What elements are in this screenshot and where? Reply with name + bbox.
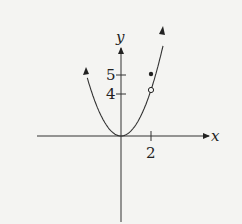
y-tick-label-5: 5	[106, 66, 116, 84]
y-tick-label-4: 4	[106, 85, 116, 103]
open-circle-point	[148, 87, 153, 92]
filled-dot-point	[149, 72, 153, 76]
left-arrow-icon	[83, 67, 89, 75]
right-arrow-icon	[159, 26, 165, 35]
graph-figure: y x 2 5 4	[0, 0, 242, 224]
y-axis-label: y	[115, 28, 125, 46]
graph-svg: y x 2 5 4	[0, 0, 242, 224]
x-axis-label: x	[211, 127, 220, 145]
x-tick-label-2: 2	[146, 144, 156, 162]
